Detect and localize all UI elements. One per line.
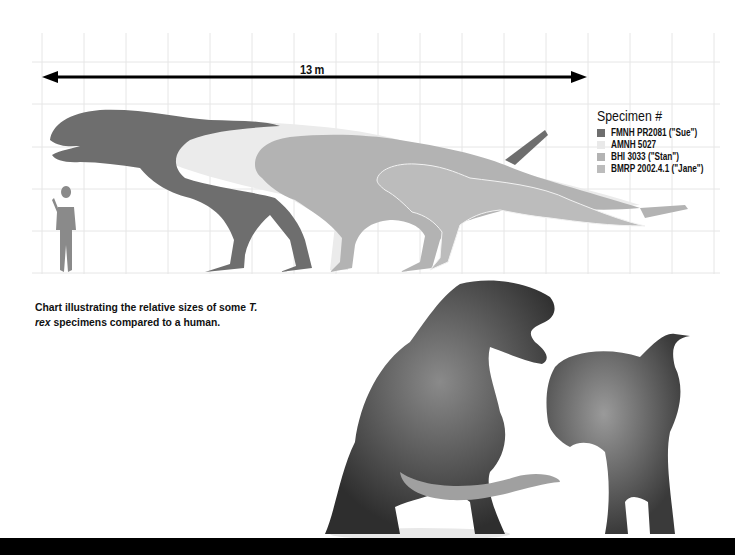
legend-label: FMNH PR2081 ("Sue") (611, 127, 697, 138)
scale-label: 13 m (300, 62, 324, 77)
trex-figurines-image (310, 272, 735, 538)
caption-text: Chart illustrating the relative sizes of… (35, 301, 249, 313)
legend: Specimen # FMNH PR2081 ("Sue") AMNH 5027… (597, 108, 724, 175)
legend-item-jane: BMRP 2002.4.1 ("Jane") (597, 163, 724, 174)
legend-label: BHI 3033 ("Stan") (611, 151, 679, 162)
chart-caption: Chart illustrating the relative sizes of… (35, 300, 269, 330)
legend-swatch (597, 153, 605, 161)
legend-swatch (597, 141, 605, 149)
legend-item-stan: BHI 3033 ("Stan") (597, 151, 724, 162)
legend-label: AMNH 5027 (611, 139, 656, 150)
silhouette-human (52, 186, 76, 272)
legend-title: Specimen # (597, 108, 708, 124)
small-trex-figurine (546, 334, 690, 534)
trex-figurines-photo (310, 272, 735, 538)
caption-text: specimens compared to a human. (51, 316, 221, 328)
legend-swatch (597, 129, 605, 137)
size-comparison-chart: 13 m Specimen # FMNH PR2081 ("Sue") AMNH… (0, 0, 735, 290)
legend-item-amnh-5027: AMNH 5027 (597, 139, 724, 150)
bottom-black-bar (0, 538, 735, 555)
legend-label: BMRP 2002.4.1 ("Jane") (611, 163, 703, 174)
legend-swatch (597, 165, 605, 173)
legend-item-sue: FMNH PR2081 ("Sue") (597, 127, 724, 138)
